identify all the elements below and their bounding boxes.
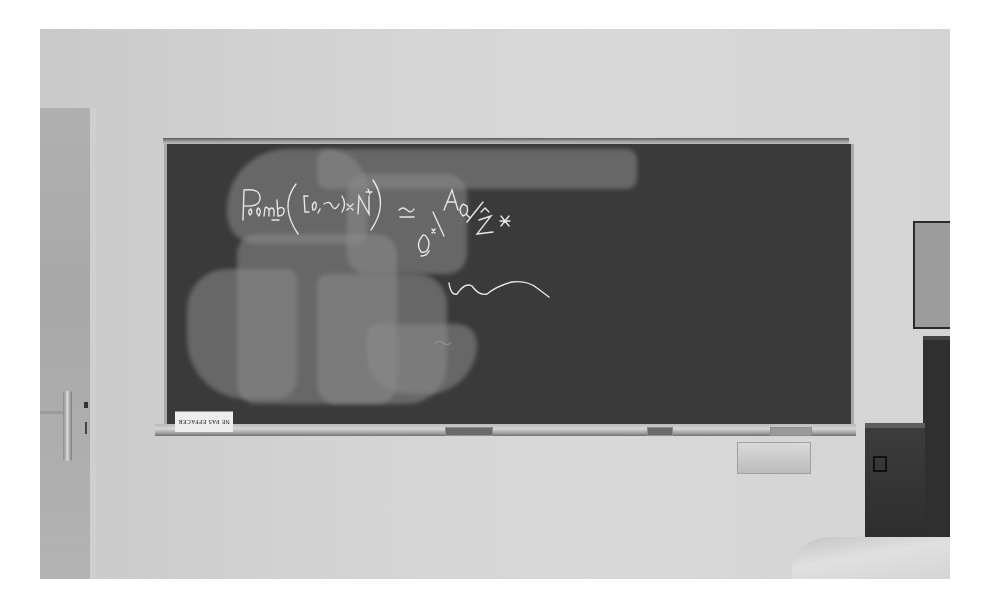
eraser bbox=[770, 427, 812, 436]
do-not-erase-sign: NE PAS EFFACER bbox=[175, 412, 233, 432]
chalk-tray-box bbox=[737, 442, 811, 474]
chalkboard bbox=[164, 144, 854, 426]
wall-screen bbox=[913, 221, 950, 329]
door-keyhole bbox=[85, 422, 87, 434]
cabinet-label-holder bbox=[873, 456, 887, 472]
door-frame bbox=[90, 108, 96, 579]
door-latch bbox=[84, 402, 88, 408]
photograph: NE PAS EFFACER bbox=[40, 29, 950, 579]
door bbox=[40, 108, 92, 579]
chalk-ledge bbox=[155, 424, 856, 436]
chair-back bbox=[792, 537, 950, 579]
eraser bbox=[445, 427, 493, 436]
chalk-writing bbox=[167, 144, 851, 426]
eraser bbox=[647, 427, 673, 436]
door-handle-plate bbox=[63, 391, 72, 461]
